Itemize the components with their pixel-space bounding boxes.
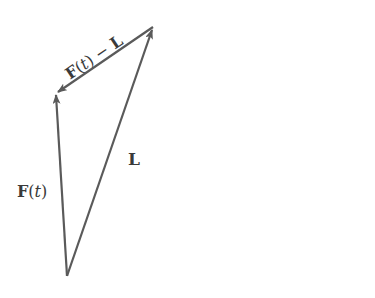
- label-f-of-t-close: ): [41, 182, 47, 201]
- label-f-minus-l: F(t) − L: [62, 31, 127, 83]
- label-f-of-t-f: F: [17, 182, 29, 201]
- label-f-of-t: F(t): [17, 182, 47, 201]
- vector-f-of-t: [56, 95, 67, 276]
- vector-diagram: F(t) L F(t) − L: [0, 0, 375, 298]
- label-l: L: [128, 149, 140, 169]
